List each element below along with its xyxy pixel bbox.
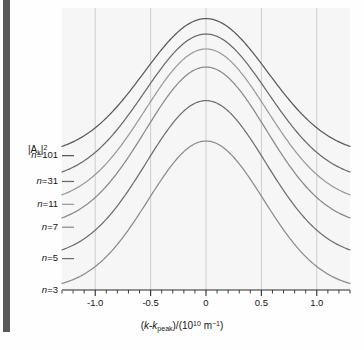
series-label-value: 101 — [42, 149, 58, 160]
series-label-value: 11 — [48, 198, 58, 209]
series-label-value: 3 — [53, 284, 58, 295]
x-tick-label-0: -1.0 — [75, 297, 115, 308]
series-label-n-3: n=3 — [14, 284, 58, 295]
x-label-metre: m — [201, 320, 212, 331]
x-label-divisor: )/(10 — [173, 320, 194, 331]
x-label-peak-sub: peak — [157, 325, 172, 332]
x-label-metre-exp: −1 — [212, 320, 220, 327]
x-label-close-paren: ) — [220, 320, 223, 331]
x-axis-line-and-ticks — [62, 290, 350, 296]
x-tick-label-1: -0.5 — [131, 297, 171, 308]
series-label-n-7: n=7 — [14, 221, 58, 232]
series-label-value: 5 — [53, 252, 58, 263]
series-label-value: 31 — [47, 175, 58, 186]
x-tick-label-3: 0.5 — [241, 297, 281, 308]
x-tick-label-2: 0 — [186, 297, 226, 308]
figure-canvas: |Ak|2 (k-kpeak)/(1010 m−1) -1.0-0.500.51… — [0, 0, 364, 350]
series-label-value: 7 — [53, 221, 58, 232]
x-axis-label: (k-kpeak)/(1010 m−1) — [0, 320, 364, 332]
series-label-n-31: n=31 — [14, 175, 58, 186]
x-label-exp10: 10 — [193, 320, 201, 327]
series-label-n-5: n=5 — [14, 252, 58, 263]
series-label-n-101: n=101 — [14, 149, 58, 160]
x-tick-label-4: 1.0 — [297, 297, 337, 308]
series-label-n-11: n=11 — [14, 198, 58, 209]
